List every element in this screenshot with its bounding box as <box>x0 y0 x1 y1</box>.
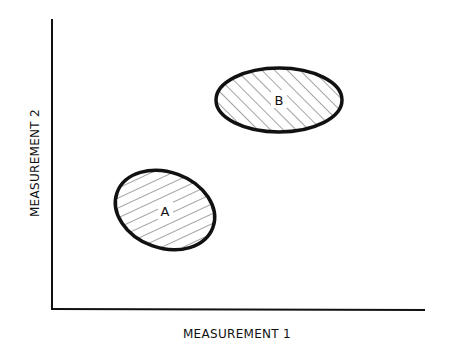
cluster-b: B <box>216 68 342 132</box>
x-axis-label: MEASUREMENT 1 <box>183 327 291 341</box>
y-axis-label: MEASUREMENT 2 <box>28 109 42 217</box>
cluster-b-label: B <box>275 93 284 108</box>
x-axis <box>51 309 425 310</box>
cluster-a-label: A <box>161 204 170 219</box>
cluster-diagram: B A MEASUREMENT 1 MEASUREMENT 2 <box>0 0 450 354</box>
cluster-a: A <box>104 157 226 263</box>
